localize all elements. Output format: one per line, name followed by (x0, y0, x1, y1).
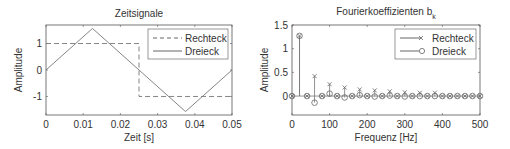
y-tick-label: 1.5 (274, 20, 288, 31)
legend-label: Rechteck (432, 33, 475, 44)
y-axis-label: Amplitude (13, 47, 24, 92)
y-tick-label: 1 (36, 38, 42, 49)
y-tick-label: 1 (282, 43, 288, 54)
x-tick-label: 400 (434, 119, 451, 130)
x-axis-label: Frequenz [Hz] (355, 132, 418, 143)
legend-label: Dreieck (432, 46, 467, 57)
legend-label: Dreieck (185, 46, 220, 57)
x-tick-label: 500 (472, 119, 489, 130)
y-tick-label: 0 (36, 65, 42, 76)
x-tick-label: 0.03 (148, 119, 168, 130)
x-tick-label: 0 (289, 119, 295, 130)
legend: Rechteck Dreieck (148, 29, 228, 59)
chart-title: Zeitsignale (115, 8, 164, 19)
y-tick-label: -1 (33, 91, 42, 102)
figure: Zeitsignale 00.010.020.030.040.05 -101 Z… (0, 0, 510, 149)
time-signal-chart: Zeitsignale 00.010.020.030.040.05 -101 Z… (13, 8, 242, 143)
legend-label: Rechteck (185, 33, 228, 44)
x-tick-label: 0.05 (222, 119, 242, 130)
x-tick-label: 300 (396, 119, 413, 130)
y-tick-label: 0.5 (274, 67, 288, 78)
y-axis-label: Amplitude (259, 47, 270, 92)
chart-title: Fourierkoeffizienten bk (336, 6, 436, 20)
y-tick-label: 0 (282, 91, 288, 102)
x-tick-label: 200 (359, 119, 376, 130)
x-axis-label: Zeit [s] (124, 132, 154, 143)
x-tick-label: 100 (321, 119, 338, 130)
x-tick-label: 0.02 (111, 119, 131, 130)
x-tick-label: 0.04 (185, 119, 205, 130)
x-tick-label: 0 (43, 119, 49, 130)
fourier-coefficient-chart: Fourierkoeffizienten bk 0100200300400500… (259, 6, 489, 143)
x-tick-label: 0.01 (73, 119, 93, 130)
legend: Rechteck Dreieck (395, 29, 476, 59)
